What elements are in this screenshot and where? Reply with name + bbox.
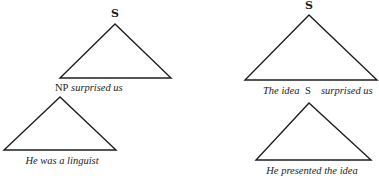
tree-embedded-right: He presented the idea	[256, 103, 371, 176]
triangle-matrix-left	[60, 24, 171, 78]
triangle-matrix-right	[245, 15, 377, 80]
tree-matrix-right: S The idea S surprised us	[245, 0, 377, 96]
root-node-label: S	[305, 0, 313, 12]
root-node-label: S	[111, 7, 119, 20]
yield-matrix-right: The idea S surprised us	[263, 85, 373, 96]
triangle-embedded-right	[256, 103, 371, 160]
tree-matrix-left: S NP surprised us	[55, 7, 171, 93]
yield-subject: The idea	[263, 85, 299, 96]
tree-embedded-left: He was a linguist	[4, 97, 116, 166]
yield-embedded-right: He presented the idea	[265, 165, 357, 176]
yield-matrix-left: NP surprised us	[55, 82, 123, 93]
syntax-tree-diagram: S NP surprised us He was a linguist S Th…	[0, 0, 379, 183]
triangle-embedded-left	[4, 97, 116, 150]
yield-embedded-left: He was a linguist	[24, 155, 99, 166]
yield-np: NP	[55, 82, 69, 93]
yield-s-node: S	[305, 85, 311, 96]
yield-predicate: surprised us	[68, 82, 122, 93]
yield-predicate: surprised us	[321, 85, 373, 96]
